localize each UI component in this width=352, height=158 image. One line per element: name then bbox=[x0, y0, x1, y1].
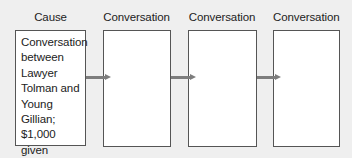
label-conversation-3: Conversation bbox=[273, 11, 339, 23]
cause-line: Lawyer bbox=[21, 66, 85, 81]
conversation-box-3[interactable] bbox=[273, 30, 340, 147]
conversation-box-2[interactable] bbox=[188, 30, 257, 147]
cause-line: Young Gillian; bbox=[21, 97, 85, 128]
cause-box-text: Conversation between Lawyer Tolman and Y… bbox=[16, 31, 85, 158]
cause-line: between bbox=[21, 50, 85, 65]
label-cause: Cause bbox=[15, 11, 86, 23]
label-conversation-2: Conversation bbox=[188, 11, 256, 23]
cause-line: $1,000 given bbox=[21, 127, 85, 158]
cause-box: Conversation between Lawyer Tolman and Y… bbox=[15, 30, 86, 146]
arrow-right-icon bbox=[86, 74, 111, 81]
label-conversation-1: Conversation bbox=[103, 11, 170, 23]
arrow-right-icon bbox=[257, 74, 281, 81]
arrow-right-icon bbox=[171, 74, 196, 81]
cause-line: Conversation bbox=[21, 35, 85, 50]
cause-line: Tolman and bbox=[21, 81, 85, 96]
conversation-box-1[interactable] bbox=[103, 30, 171, 147]
